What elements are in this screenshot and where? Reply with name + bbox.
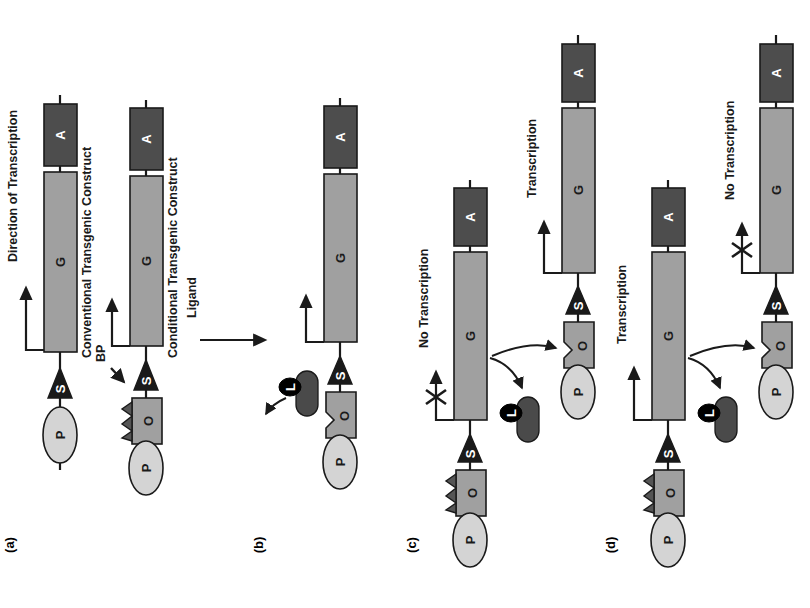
gene-label: G [661,331,676,341]
transcription-direction-arrow [112,300,130,346]
panel-label-c: (c) [404,537,419,553]
promoter-label: P [661,535,676,544]
binding-protein-blob [296,371,318,416]
direction-of-transcription-text: Direction of Transcription [6,110,20,262]
polya-label: A [571,68,586,78]
ligand-label-letter: L [702,409,717,417]
panel-c-construct-bound: A G S O P No Transcription [417,180,487,567]
bp-zigzag-shape [122,402,132,441]
polya-label: A [139,134,154,144]
gene-label: G [333,253,348,263]
splice-site-label: S [571,301,586,310]
transcription-text: Transcription [525,119,539,198]
bp-zigzag-shape [644,474,654,513]
polya-label: A [333,132,348,142]
polya-label: A [463,212,478,222]
panel-d-bp-ligand-complex: L [688,345,754,442]
promoter-label: P [769,387,784,396]
state-transition-arrow [690,345,754,356]
polya-label: A [769,68,784,78]
splice-site-label: S [139,376,154,385]
promoter-label: P [139,463,154,472]
panel-label-a: (a) [2,537,17,553]
polya-label: A [53,130,68,140]
panel-a-conventional-construct: A G S P Direction of Transcription Conve… [6,95,94,470]
no-transcription-text: No Transcription [417,249,431,348]
bp-ligand-complex: L [279,371,318,416]
gene-label: G [139,256,154,266]
bp-zigzag-shape [446,474,456,513]
transcription-arrow [634,368,652,420]
figure-canvas: A G S P Direction of Transcription Conve… [0,0,810,608]
transcription-text: Transcription [615,265,629,344]
panel-b-ligand-arrow-group: Ligand [185,277,265,340]
conventional-construct-caption: Conventional Transgenic Construct [80,146,94,358]
binding-protein-blob [517,397,539,442]
panel-b-construct: A G S O P L [266,98,357,489]
binding-protein-blob [715,397,737,442]
diagram-svg: A G S P Direction of Transcription Conve… [0,0,810,608]
promoter-label: P [463,535,478,544]
panel-d-construct-bound: A G S O P Transcription [615,180,685,567]
transcription-direction-arrow [306,296,324,342]
ligand-label: Ligand [185,277,199,318]
splice-site-label: S [661,449,676,458]
no-transcription-text: No Transcription [723,101,737,200]
panel-label-d: (d) [603,537,618,554]
panel-a-conditional-construct: A G S O P BP Conditional Transgenic Cons… [94,100,180,495]
gene-label: G [571,185,586,195]
conditional-construct-caption: Conditional Transgenic Construct [166,156,180,358]
bp-release-arrow [266,398,286,414]
splice-site-label: S [333,371,348,380]
operator-label: O [337,411,352,421]
transcription-arrow [544,222,562,273]
panel-d-construct-free: A G S O P No Transcription [723,35,793,419]
polya-label: A [661,212,676,222]
bp-pointer-label: BP [94,345,108,362]
promoter-label: P [571,387,586,396]
promoter-label: P [333,457,348,466]
operator-label: O [141,416,156,426]
operator-label: O [663,488,678,498]
bp-pointer-arrow [111,368,124,382]
direction-of-transcription-arrow [26,288,44,350]
operator-label: O [575,341,590,351]
gene-label: G [769,185,784,195]
promoter-label: P [53,430,68,439]
bp-dissociation-arrow [688,358,720,388]
operator-label: O [773,341,788,351]
splice-site-label: S [53,384,68,393]
panel-c-bp-ligand-complex: L [490,345,556,442]
splice-site-label: S [769,301,784,310]
panel-label-b: (b) [251,537,266,554]
gene-label: G [53,257,68,267]
operator-label: O [465,488,480,498]
gene-label: G [463,331,478,341]
ligand-label-letter: L [504,409,519,417]
state-transition-arrow [492,345,556,356]
ligand-label-letter: L [283,383,298,391]
panel-c-construct-free: A G S O P Transcription [525,35,595,419]
bp-dissociation-arrow [490,358,522,388]
splice-site-label: S [463,449,478,458]
